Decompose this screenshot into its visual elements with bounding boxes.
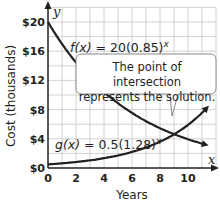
callout-line-1: The point of intersection [78,60,216,90]
y-tick-label: $20 [22,16,45,29]
x-tick-label: 4 [100,172,108,185]
x-tick-label: 8 [156,172,164,185]
x-tick-label: 2 [72,172,80,185]
y-axis-arrow-icon [45,1,52,9]
f-equation-label: f(x) = 20(0.85)x [70,39,169,55]
x-tick-label: 0 [44,172,52,185]
y-axis-var: y [52,4,61,19]
g-equation-label: g(x) = 0.5(1.28)x [55,136,162,152]
x-axis-title: Years [115,188,148,202]
y-axis-title: Cost (thousands) [4,45,18,147]
callout-line-2: represents the solution. [78,90,216,105]
y-tick-label: $0 [30,162,46,175]
y-tick-label: $4 [30,133,46,146]
x-tick-label: 6 [128,172,136,185]
y-tick-label: $8 [30,104,45,117]
x-axis-var: x [208,152,216,167]
callout-text: The point of intersection represents the… [78,55,216,95]
y-tick-label: $16 [22,45,45,58]
y-tick-label: $12 [22,74,45,87]
x-tick-label: 10 [180,172,196,185]
